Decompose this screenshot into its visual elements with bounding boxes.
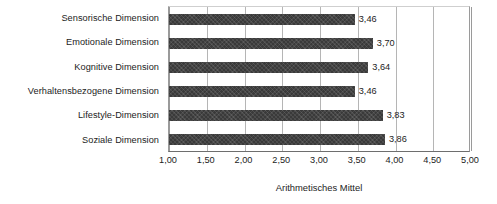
category-label-cell: Lifestyle-Dimension (0, 103, 164, 127)
x-tick-label: 1,00 (159, 155, 177, 165)
bar-row: 3,83 (169, 103, 469, 127)
bar (169, 134, 385, 145)
bar (169, 38, 373, 49)
category-label: Soziale Dimension (82, 135, 159, 145)
bar-chart: Sensorische DimensionEmotionale Dimensio… (0, 0, 497, 204)
bar-row: 3,64 (169, 55, 469, 79)
bar (169, 14, 355, 25)
bar-value-label: 3,70 (377, 38, 395, 48)
x-tick-label: 3,00 (310, 155, 328, 165)
category-label: Emotionale Dimension (66, 37, 159, 47)
category-label: Sensorische Dimension (61, 13, 159, 23)
category-label: Lifestyle-Dimension (78, 110, 159, 120)
bar-row: 3,46 (169, 79, 469, 103)
x-tick-label: 2,50 (272, 155, 290, 165)
bar-row: 3,70 (169, 31, 469, 55)
x-tick-label: 2,00 (235, 155, 253, 165)
x-tick-label: 4,50 (423, 155, 441, 165)
category-label-cell: Soziale Dimension (0, 128, 164, 152)
x-tick-label: 5,00 (461, 155, 479, 165)
x-axis-title: Arithmetisches Mittel (168, 182, 470, 193)
bar-value-label: 3,64 (372, 62, 390, 72)
bar (169, 62, 368, 73)
bar (169, 86, 355, 97)
plot-area: 3,463,703,643,463,833,86 (168, 6, 470, 152)
bars-layer: 3,463,703,643,463,833,86 (169, 7, 469, 151)
x-axis-tick-labels: 1,001,502,002,503,003,504,004,505,00 (168, 155, 470, 169)
bar-value-label: 3,86 (389, 134, 407, 144)
x-tick-label: 1,50 (197, 155, 215, 165)
bar-row: 3,46 (169, 7, 469, 31)
bar (169, 110, 383, 121)
category-label-cell: Sensorische Dimension (0, 6, 164, 30)
category-label-cell: Kognitive Dimension (0, 55, 164, 79)
category-axis: Sensorische DimensionEmotionale Dimensio… (0, 6, 164, 152)
bar-value-label: 3,46 (359, 14, 377, 24)
x-tick-label: 4,00 (386, 155, 404, 165)
gridline (471, 7, 472, 151)
category-label: Kognitive Dimension (74, 62, 159, 72)
category-label: Verhaltensbezogene Dimension (28, 86, 159, 96)
x-tick-label: 3,50 (348, 155, 366, 165)
bar-value-label: 3,83 (387, 110, 405, 120)
category-label-cell: Verhaltensbezogene Dimension (0, 79, 164, 103)
category-label-cell: Emotionale Dimension (0, 30, 164, 54)
bar-value-label: 3,46 (359, 86, 377, 96)
bar-row: 3,86 (169, 127, 469, 151)
